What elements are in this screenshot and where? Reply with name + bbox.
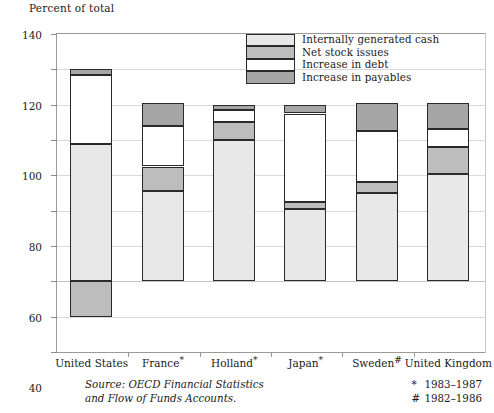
x-axis-category-label: Holland*: [211, 357, 257, 369]
bar-segment: [356, 103, 398, 131]
gridline: [57, 246, 485, 247]
bar-segment: [70, 75, 112, 144]
footnote-text: 1982–1986: [424, 391, 482, 405]
bar-group: [72, 34, 114, 352]
bar-segment: [356, 193, 398, 281]
bar-segment: [284, 114, 326, 202]
x-axis-category-label: Japan*: [288, 357, 323, 369]
y-axis-tick-label: 60: [2, 312, 42, 324]
y-axis-tick: 100: [51, 105, 57, 106]
category-name: Japan: [288, 357, 318, 369]
y-axis-tick-label: 140: [2, 29, 42, 41]
legend-label: Internally generated cash: [302, 33, 439, 45]
x-axis-labels: United StatesFrance*Holland*Japan*Sweden…: [56, 357, 486, 373]
legend-label: Increase in payables: [302, 71, 411, 83]
bar-segment: [427, 147, 469, 174]
gridline: [57, 317, 485, 318]
footnote-text: 1983–1987: [424, 377, 482, 391]
category-name: France: [142, 357, 179, 369]
footnote-row: #1982–1986: [411, 391, 482, 405]
legend-item[interactable]: Increase in debt: [246, 58, 431, 71]
y-axis-tick: 0: [51, 281, 57, 282]
footnote-symbol: *: [411, 377, 424, 391]
legend-swatch: [246, 46, 295, 59]
bar-segment: [213, 110, 255, 122]
bar-group: [428, 34, 470, 352]
x-axis-category-label: France*: [142, 357, 184, 369]
bar-segment: [70, 69, 112, 74]
y-axis-tick: 40: [51, 211, 57, 212]
bar-group: [143, 34, 185, 352]
bar-segment: [142, 126, 184, 167]
bar-segment: [213, 140, 255, 281]
x-axis-category-label: Sweden#: [352, 357, 402, 369]
bar-segment: [427, 174, 469, 282]
gridline: [57, 175, 485, 176]
bar-segment: [142, 103, 184, 126]
bar-segment: [70, 144, 112, 282]
footnote-row: *1983–1987: [411, 377, 482, 391]
y-axis-tick: 120: [51, 69, 57, 70]
legend-item[interactable]: Internally generated cash: [246, 33, 431, 46]
y-axis-title: Percent of total: [29, 2, 114, 14]
bar-segment: [356, 182, 398, 193]
bar-segment: [213, 105, 255, 110]
source-line-2: and Flow of Funds Accounts.: [85, 391, 264, 405]
bar-segment: [142, 167, 184, 192]
bar-segment: [213, 122, 255, 140]
y-axis-tick-label: 120: [2, 100, 42, 112]
source-line-1: Source: OECD Financial Statistics: [85, 377, 264, 391]
category-name: United States: [55, 357, 128, 369]
footnotes: *1983–1987#1982–1986: [411, 377, 482, 405]
category-footnote-marker: *: [319, 355, 324, 365]
category-footnote-marker: *: [179, 355, 184, 365]
gridline: [57, 140, 485, 141]
bar-segment: [356, 131, 398, 182]
bar-segment: [284, 202, 326, 209]
y-axis-tick: –40: [51, 352, 57, 353]
legend-item[interactable]: Increase in payables: [246, 71, 431, 84]
category-name: Sweden: [352, 357, 394, 369]
category-footnote-marker: #: [394, 355, 402, 365]
bar-segment: [142, 191, 184, 281]
legend-label: Net stock issues: [302, 46, 389, 58]
y-axis-tick: 140: [51, 34, 57, 35]
y-axis-tick: 20: [51, 246, 57, 247]
legend-label: Increase in debt: [302, 58, 388, 70]
legend-swatch: [246, 59, 295, 72]
y-axis-tick: 60: [51, 175, 57, 176]
x-axis-category-label: United Kingdom: [405, 357, 492, 369]
bar-segment: [427, 103, 469, 130]
chart-legend: Internally generated cashNet stock issue…: [246, 33, 431, 83]
y-axis-tick: 80: [51, 140, 57, 141]
category-footnote-marker: *: [253, 355, 258, 365]
y-axis-tick: –20: [51, 317, 57, 318]
bar-segment: [284, 105, 326, 114]
y-axis-tick-label: 100: [2, 170, 42, 182]
gridline: [57, 105, 485, 106]
legend-item[interactable]: Net stock issues: [246, 46, 431, 59]
bar-segment: [427, 129, 469, 147]
bar-segment: [70, 281, 112, 316]
footnote-symbol: #: [411, 391, 424, 405]
category-name: Holland: [211, 357, 253, 369]
x-axis-category-label: United States: [55, 357, 128, 369]
source-note: Source: OECD Financial Statistics and Fl…: [85, 377, 264, 405]
legend-swatch: [246, 34, 295, 47]
bar-segment: [284, 209, 326, 281]
gridline: [57, 211, 485, 212]
gridline: [57, 281, 485, 282]
y-axis-tick-label: 80: [2, 241, 42, 253]
category-name: United Kingdom: [405, 357, 492, 369]
legend-swatch: [246, 71, 295, 84]
y-axis-tick-label: 40: [2, 382, 42, 394]
